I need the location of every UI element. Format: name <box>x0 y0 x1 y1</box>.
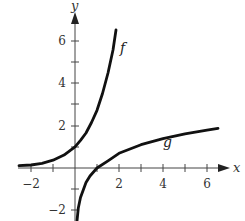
y-tick-label-2: 2 <box>58 119 66 133</box>
curve-f <box>19 30 116 166</box>
y-axis-label: y <box>70 0 79 13</box>
x-tick-label-neg2: −2 <box>22 177 40 191</box>
x-axis-label: x <box>233 160 241 175</box>
curve-label-f: f <box>119 40 128 56</box>
x-tick-label-2: 2 <box>115 177 123 191</box>
y-tick-label-4: 4 <box>58 76 66 90</box>
y-tick-label-6: 6 <box>58 34 66 48</box>
y-tick-label-neg2: −2 <box>48 203 66 217</box>
x-axis-arrow-icon <box>218 164 230 172</box>
x-tick-label-6: 6 <box>203 177 211 191</box>
curve-label-g: g <box>163 134 172 150</box>
graph-canvas: −2 2 4 6 6 4 2 −2 x y f g <box>0 0 245 221</box>
x-tick-label-4: 4 <box>159 177 167 191</box>
y-axis-arrow-icon <box>71 12 79 24</box>
curve-g <box>77 128 218 221</box>
